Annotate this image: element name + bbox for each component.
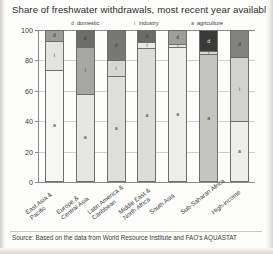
bar-latin-america-caribbean[interactable]: dia	[107, 30, 126, 182]
bar-segment-domestic[interactable]: d	[45, 30, 64, 41]
bar-segment-agriculture[interactable]: a	[230, 121, 249, 182]
bar-segment-key-label: d	[176, 35, 179, 40]
bar-group: diadiadiadiadiadiadia	[39, 30, 255, 182]
chart-title: Share of freshwater withdrawals, most re…	[12, 4, 267, 15]
y-axis-tick-label: 60	[25, 86, 33, 95]
bar-segment-industry[interactable]: i	[107, 60, 126, 75]
bar-segment-key-label: d	[207, 39, 210, 44]
legend-item-domestic: d domestic	[70, 20, 99, 26]
plot-area: 020406080100 diadiadiadiadiadiadia	[38, 30, 255, 183]
page-edge-shadow-left	[0, 0, 5, 254]
bar-segment-key-label: a	[53, 123, 56, 128]
legend-key-agriculture-icon: a	[190, 21, 195, 26]
bar-sub-saharan-africa[interactable]: dia	[199, 30, 218, 182]
bar-high-income[interactable]: dia	[230, 30, 249, 182]
legend-label-domestic: domestic	[77, 20, 99, 26]
bar-segment-agriculture[interactable]: a	[107, 76, 126, 182]
bar-middle-east-north-africa[interactable]: dia	[137, 30, 156, 182]
bar-segment-key-label: i	[85, 68, 86, 73]
bar-segment-domestic[interactable]: d	[168, 30, 187, 44]
bar-segment-domestic[interactable]: d	[199, 30, 218, 51]
bar-segment-agriculture[interactable]: a	[45, 70, 64, 182]
legend-label-industry: industry	[139, 20, 159, 26]
bar-segment-key-label: i	[116, 66, 117, 71]
legend-label-agriculture: agriculture	[197, 20, 223, 26]
bar-segment-key-label: a	[238, 149, 241, 154]
bar-segment-key-label: a	[207, 116, 210, 121]
bar-segment-domestic[interactable]: d	[230, 30, 249, 57]
bar-segment-key-label: d	[238, 42, 241, 47]
legend-key-industry-icon: i	[132, 21, 137, 26]
chart-legend: d domestic i industry a agriculture	[70, 19, 245, 30]
legend-item-agriculture: a agriculture	[190, 20, 223, 26]
source-divider	[10, 231, 262, 232]
bar-segment-agriculture[interactable]: a	[168, 47, 187, 182]
bar-segment-domestic[interactable]: d	[107, 30, 126, 60]
bar-segment-key-label: a	[176, 112, 179, 117]
bar-segment-agriculture[interactable]: a	[199, 54, 218, 182]
bar-segment-industry[interactable]: i	[45, 41, 64, 70]
page-edge-shadow-bottom	[0, 248, 273, 254]
bar-segment-agriculture[interactable]: a	[76, 94, 95, 182]
y-axis-tick-label: 20	[25, 147, 33, 156]
figure: Share of freshwater withdrawals, most re…	[0, 0, 273, 254]
bar-segment-key-label: a	[146, 113, 149, 118]
y-axis-tick-label: 80	[25, 56, 33, 65]
legend-key-domestic-icon: d	[70, 21, 75, 26]
bar-segment-key-label: i	[54, 53, 55, 58]
y-axis-tick-label: 0	[29, 178, 33, 187]
bar-segment-key-label: d	[53, 33, 56, 38]
bar-segment-key-label: d	[115, 43, 118, 48]
bar-segment-industry[interactable]: i	[230, 57, 249, 121]
bar-segment-key-label: d	[84, 36, 87, 41]
bar-segment-key-label: a	[84, 135, 87, 140]
bar-segment-key-label: i	[239, 87, 240, 92]
bar-segment-domestic[interactable]: d	[137, 30, 156, 42]
y-axis-tick-label: 40	[25, 117, 33, 126]
page-edge-shadow-right	[266, 0, 273, 254]
bar-segment-industry[interactable]: i	[76, 47, 95, 94]
y-axis-tick-label: 100	[21, 26, 33, 35]
x-axis-labels: East Asia &PacificEurope &Central AsiaLa…	[38, 184, 254, 230]
y-axis-tick	[35, 182, 39, 183]
bar-east-asia-pacific[interactable]: dia	[45, 30, 64, 182]
legend-item-industry: i industry	[132, 20, 159, 26]
bar-segment-key-label: d	[146, 34, 149, 39]
bar-segment-agriculture[interactable]: a	[137, 48, 156, 182]
bar-segment-key-label: a	[115, 126, 118, 131]
bar-europe-central-asia[interactable]: dia	[76, 30, 95, 182]
source-note: Source: Based on the data from World Res…	[12, 234, 237, 241]
bar-segment-domestic[interactable]: d	[76, 30, 95, 47]
bar-south-asia[interactable]: dia	[168, 30, 187, 182]
